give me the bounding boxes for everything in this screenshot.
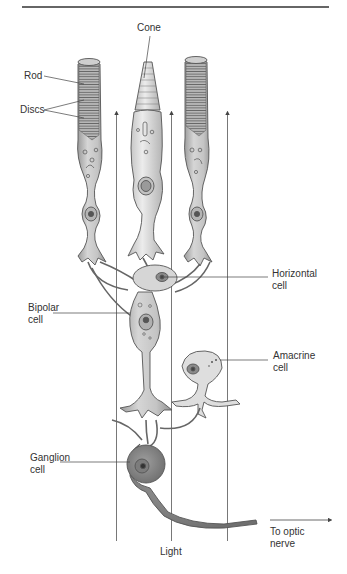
- amacrine-cell: [172, 351, 240, 418]
- label-to-optic-nerve: To optic nerve: [270, 526, 304, 550]
- horizontal-cell: [133, 265, 177, 291]
- label-discs: Discs: [20, 104, 44, 116]
- rod-right: [184, 57, 212, 267]
- label-amacrine-cell: Amacrine cell: [273, 350, 315, 374]
- label-bipolar-cell: Bipolar cell: [28, 302, 59, 326]
- label-ganglion-cell: Ganglion cell: [30, 452, 70, 476]
- label-horizontal-cell: Horizontal cell: [272, 268, 317, 292]
- bipolar-cell: [120, 292, 172, 418]
- label-rod: Rod: [24, 70, 42, 82]
- rod-left: [78, 59, 106, 266]
- label-cone: Cone: [137, 22, 161, 34]
- label-light: Light: [160, 546, 182, 558]
- ganglion-cell: [127, 444, 257, 528]
- cone-cell: [128, 62, 164, 260]
